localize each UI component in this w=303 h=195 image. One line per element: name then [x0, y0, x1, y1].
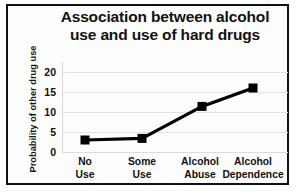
x-axis-tick-labels: No Use Some Use Alcohol Abuse Alcohol De…	[62, 156, 288, 184]
chart-title: Association between alcohol use and use …	[40, 8, 290, 44]
y-axis-tick-labels: 0 5 10 15 20	[26, 62, 56, 152]
series-markers	[81, 84, 258, 145]
data-point-marker	[249, 84, 258, 93]
data-point-marker	[138, 134, 147, 143]
chart-title-line-2: use and use of hard drugs	[40, 26, 290, 44]
data-point-marker	[81, 136, 90, 145]
plot-area	[62, 62, 288, 152]
data-series-line	[62, 62, 288, 154]
chart-figure: Association between alcohol use and use …	[0, 0, 303, 195]
y-tick-label-15: 15	[30, 86, 56, 98]
x-tick-label-alcohol-dependence: Alcohol Dependence	[210, 156, 296, 181]
y-tick-label-5: 5	[30, 126, 56, 138]
y-tick-label-10: 10	[30, 106, 56, 118]
y-tick-label-20: 20	[30, 66, 56, 78]
data-point-marker	[198, 102, 207, 111]
series-polyline	[85, 88, 253, 140]
chart-title-line-1: Association between alcohol	[40, 8, 290, 26]
